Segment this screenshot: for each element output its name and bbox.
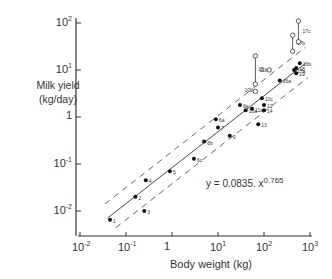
equation-exponent: 0.765 (264, 176, 284, 185)
y-tick-label: 1 (66, 109, 72, 121)
open-data-point (296, 19, 300, 23)
filled-data-point (256, 122, 260, 126)
point-label: 13 (261, 122, 267, 128)
point-label: 10c (265, 96, 274, 102)
open-data-point (253, 89, 257, 93)
filled-data-point (250, 107, 254, 111)
point-label: 1 (113, 218, 116, 224)
filled-data-point (108, 218, 112, 222)
open-data-point (290, 33, 294, 37)
open-data-point (296, 40, 300, 44)
filled-data-point (262, 108, 266, 112)
x-tick-label: 103 (302, 240, 318, 253)
fit-equation: y = 0.0835. x0.765 (206, 176, 284, 189)
open-data-point (290, 49, 294, 53)
filled-data-point (133, 195, 137, 199)
y-axis-title: Milk yield (kg/day) (18, 78, 98, 106)
x-axis-title: Body weight (kg) (170, 258, 252, 270)
point-label: 15 (258, 66, 264, 72)
filled-data-point (192, 157, 196, 161)
point-label: 2 (138, 195, 141, 201)
point-label: 9 (233, 134, 236, 140)
y-tick-label: 10-2 (54, 203, 72, 216)
x-tick-label: 10-2 (72, 240, 90, 253)
point-label: 4 (149, 178, 152, 184)
filled-data-point (144, 178, 148, 182)
point-label: 6c (197, 157, 203, 163)
point-label: 19 (299, 71, 305, 77)
x-tick-label: 102 (256, 240, 272, 253)
equation-base: y = 0.0835. x (206, 178, 264, 189)
y-title-line2: (kg/day) (18, 92, 98, 106)
filled-data-point (238, 103, 242, 107)
filled-data-point (278, 78, 282, 82)
scatter-plot: 123456c6b76a98a10a11a10c12141316a17a1819… (0, 0, 332, 279)
point-label: 6a (219, 117, 225, 123)
y-title-line1: Milk yield (18, 78, 98, 92)
x-tick-label: 1 (164, 240, 170, 252)
filled-data-point (168, 169, 172, 173)
y-tick-label: 101 (56, 62, 72, 75)
point-label: 17c (302, 28, 311, 34)
point-label: 16a (283, 78, 292, 84)
filled-data-point (244, 108, 248, 112)
filled-data-point (216, 125, 220, 129)
y-tick-label: 10-1 (54, 156, 72, 169)
point-label: 7 (221, 125, 224, 131)
point-label: 11a (255, 107, 263, 113)
x-tick-label: 10-1 (118, 240, 136, 253)
open-data-point (267, 68, 271, 72)
point-label: 10b (244, 87, 253, 93)
x-tick-label: 101 (210, 240, 226, 253)
open-data-point (253, 54, 257, 58)
lower-confidence-band (116, 78, 308, 228)
y-tick-label: 102 (56, 15, 72, 28)
filled-data-point (202, 140, 206, 144)
point-label: 5 (173, 169, 176, 175)
open-data-point (253, 82, 257, 86)
filled-data-point (294, 66, 298, 70)
point-label: 14 (267, 108, 273, 114)
point-label: 3 (147, 209, 150, 215)
filled-data-point (298, 61, 302, 65)
filled-data-point (262, 103, 266, 107)
filled-data-point (228, 134, 232, 138)
filled-data-point (260, 96, 264, 100)
point-label: 16b (303, 61, 312, 67)
filled-data-point (142, 209, 146, 213)
filled-data-point (214, 117, 218, 121)
point-label: 6b (207, 140, 213, 146)
filled-data-point (294, 71, 298, 75)
